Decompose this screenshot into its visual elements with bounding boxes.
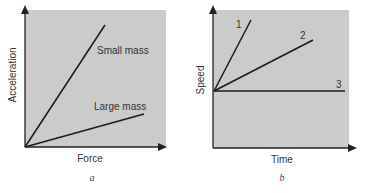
label-line-3: 3 bbox=[336, 79, 342, 90]
panel-b-x-label: Time bbox=[271, 154, 293, 165]
panel-a-background bbox=[25, 10, 166, 147]
panel-b-y-label: Speed bbox=[195, 66, 206, 95]
panel-a-y-arrow-icon bbox=[21, 5, 29, 14]
label-line-2: 2 bbox=[300, 30, 306, 41]
label-line-1: 1 bbox=[236, 19, 242, 30]
panel-b: 1 2 3 Speed Time b bbox=[195, 5, 357, 183]
panel-a-x-label: Force bbox=[77, 153, 103, 164]
panel-b-background bbox=[213, 10, 349, 148]
panel-b-y-arrow-icon bbox=[209, 5, 217, 14]
figure: Small mass Large mass Acceleration Force… bbox=[0, 0, 365, 193]
panel-a-caption: a bbox=[90, 172, 95, 183]
label-small-mass: Small mass bbox=[97, 45, 149, 56]
panel-a-y-label: Acceleration bbox=[7, 47, 18, 102]
panel-a: Small mass Large mass Acceleration Force… bbox=[7, 5, 167, 183]
label-large-mass: Large mass bbox=[94, 101, 146, 112]
panel-b-caption: b bbox=[280, 172, 285, 183]
panel-b-x-arrow-icon bbox=[348, 144, 357, 152]
